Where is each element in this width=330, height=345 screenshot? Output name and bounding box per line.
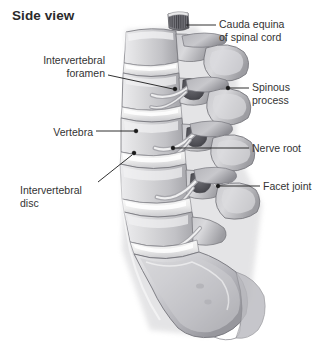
label-vertebra: Vertebra bbox=[0, 126, 93, 139]
label-intervertebral-disc: Intervertebral disc bbox=[20, 184, 82, 210]
marker-nerve-root bbox=[171, 146, 175, 150]
marker-intervertebral-foramen bbox=[173, 87, 177, 91]
label-spinous-process: Spinous process bbox=[252, 81, 290, 107]
label-facet-joint: Facet joint bbox=[263, 180, 311, 193]
label-nerve-root: Nerve root bbox=[252, 142, 301, 155]
marker-spinous-process bbox=[226, 86, 230, 90]
marker-vertebra bbox=[134, 129, 138, 133]
spine-diagram bbox=[0, 0, 330, 345]
label-cauda-equina: Cauda equina of spinal cord bbox=[219, 18, 284, 44]
figure-title: Side view bbox=[12, 8, 74, 23]
marker-facet-joint bbox=[216, 184, 220, 188]
marker-intervertebral-disc bbox=[132, 151, 136, 155]
label-intervertebral-foramen: Intervertebral foramen bbox=[0, 54, 105, 80]
cauda-equina-structure bbox=[168, 12, 189, 31]
